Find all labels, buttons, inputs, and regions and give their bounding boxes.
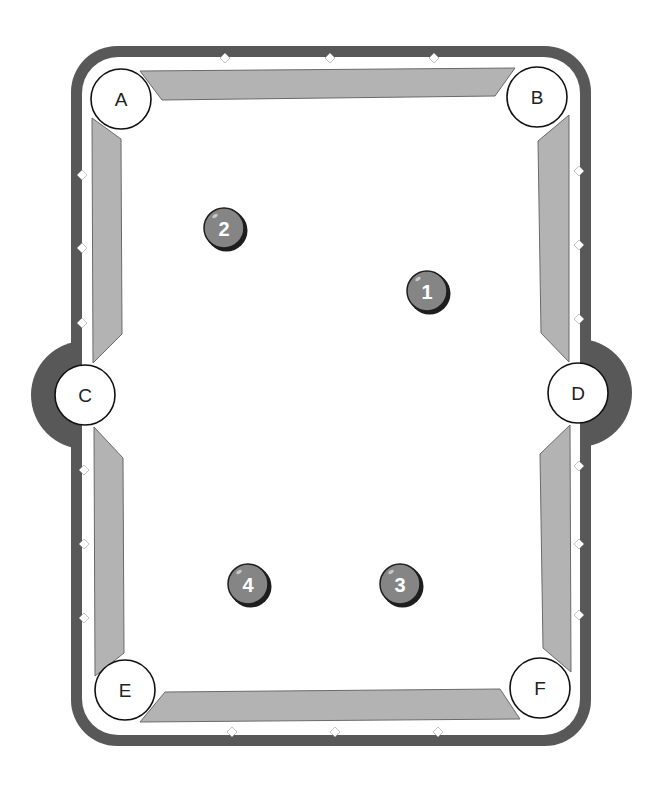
cushion-bottom bbox=[140, 689, 520, 722]
pocket-label: E bbox=[119, 680, 132, 701]
ball-number: 4 bbox=[242, 574, 254, 596]
pocket-c: C bbox=[55, 365, 115, 425]
inner-rail-band bbox=[82, 57, 580, 735]
pocket-label: C bbox=[78, 385, 92, 406]
ball-number: 1 bbox=[421, 281, 432, 303]
ball-number: 2 bbox=[218, 218, 229, 240]
pocket-a: A bbox=[91, 69, 151, 129]
pocket-label: B bbox=[531, 87, 544, 108]
ball-number: 3 bbox=[394, 574, 405, 596]
cushion-top bbox=[140, 68, 515, 100]
cushion-right-upper bbox=[538, 115, 569, 362]
pocket-f: F bbox=[510, 658, 570, 718]
pool-table-diagram: ABCDEF 1234 bbox=[0, 0, 666, 785]
pocket-b: B bbox=[507, 67, 567, 127]
pocket-label: F bbox=[534, 678, 546, 699]
pocket-label: D bbox=[571, 383, 585, 404]
cushion-left-lower bbox=[94, 427, 124, 676]
pocket-e: E bbox=[95, 660, 155, 720]
pocket-d: D bbox=[548, 363, 608, 423]
cushion-left-upper bbox=[92, 118, 122, 363]
pocket-label: A bbox=[115, 89, 128, 110]
cushion-right-lower bbox=[540, 425, 571, 672]
